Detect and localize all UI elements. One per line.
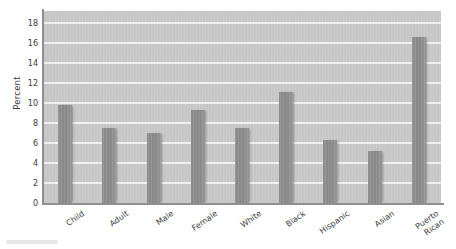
bar — [147, 133, 161, 203]
bar — [323, 140, 337, 203]
y-tick-label: 10 — [14, 99, 38, 108]
bar — [58, 105, 72, 203]
x-tick-label: Black — [284, 209, 307, 229]
gridline — [43, 82, 441, 84]
y-tick-label: 18 — [14, 19, 38, 28]
y-tick-label: 8 — [14, 119, 38, 128]
gridline — [43, 22, 441, 24]
x-tick-label-line: Hispanic — [319, 209, 352, 236]
bar — [412, 37, 426, 203]
x-tick-label-line: White — [239, 209, 264, 230]
x-tick-label: Female — [190, 209, 219, 233]
plot-inner — [43, 11, 441, 203]
x-tick-label: Hispanic — [319, 209, 352, 236]
plot-area — [43, 11, 441, 203]
gridline — [43, 102, 441, 104]
bar — [102, 128, 116, 203]
x-tick-label-line: Asian — [373, 209, 396, 229]
x-tick-label: White — [239, 209, 264, 230]
x-tick-label-line: Child — [65, 209, 87, 228]
y-tick-label: 14 — [14, 59, 38, 68]
x-tick-label-line: Male — [154, 209, 175, 228]
bar — [191, 110, 205, 203]
y-tick-label: 16 — [14, 39, 38, 48]
x-tick-label: PuertoRican — [414, 209, 446, 239]
x-tick-label-line: Female — [190, 209, 219, 233]
y-tick-label: 0 — [14, 199, 38, 208]
x-tick-label: Asian — [373, 209, 396, 229]
x-tick-label: Adult — [108, 209, 131, 229]
gridline — [43, 42, 441, 44]
gridline — [43, 122, 441, 124]
y-axis-tick-labels: 024681012141618 — [14, 11, 38, 203]
y-tick-label: 12 — [14, 79, 38, 88]
bar-chart-figure: Percent 024681012141618 ChildAdultMaleFe… — [0, 0, 456, 249]
y-tick-label: 6 — [14, 139, 38, 148]
y-axis-spine — [42, 9, 44, 205]
y-tick-label: 2 — [14, 179, 38, 188]
bar — [235, 128, 249, 203]
x-tick-label-line: Adult — [108, 209, 131, 229]
x-tick-label: Male — [154, 209, 175, 228]
y-tick-label: 4 — [14, 159, 38, 168]
caption-artifact — [6, 240, 58, 244]
x-tick-label-line: Black — [284, 209, 307, 229]
bar — [279, 92, 293, 203]
x-tick-label: Child — [65, 209, 87, 228]
bar — [368, 151, 382, 203]
x-axis-tick-labels: ChildAdultMaleFemaleWhiteBlackHispanicAs… — [43, 205, 441, 249]
gridline — [43, 62, 441, 64]
